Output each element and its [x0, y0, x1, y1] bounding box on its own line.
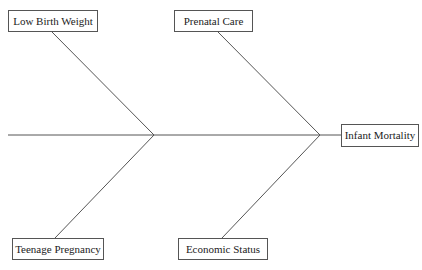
cause-label: Teenage Pregnancy [15, 244, 101, 255]
bone-low-birth-weight [52, 32, 154, 135]
cause-box-teenage-pregnancy: Teenage Pregnancy [12, 238, 104, 260]
bone-economic-status [222, 135, 320, 238]
bone-prenatal-care [218, 32, 320, 135]
cause-label: Low Birth Weight [13, 16, 93, 27]
effect-box-infant-mortality: Infant Mortality [341, 124, 419, 147]
cause-label: Economic Status [186, 244, 260, 255]
cause-label: Prenatal Care [184, 16, 244, 27]
effect-label: Infant Mortality [345, 130, 416, 141]
bone-teenage-pregnancy [55, 135, 154, 238]
cause-box-prenatal-care: Prenatal Care [174, 10, 253, 32]
cause-box-economic-status: Economic Status [178, 238, 268, 260]
cause-box-low-birth-weight: Low Birth Weight [8, 10, 98, 32]
